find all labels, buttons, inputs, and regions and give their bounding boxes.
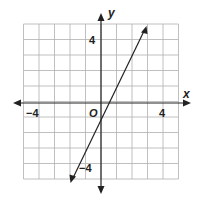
y-axis-down-arrow-icon <box>98 186 105 194</box>
y-axis-label: y <box>107 6 116 20</box>
x-axis-label: x <box>182 87 191 101</box>
y-tick-neg4: −4 <box>79 162 92 174</box>
plotted-line <box>70 26 148 183</box>
line-top-arrow-icon <box>141 26 148 34</box>
x-axis-left-arrow-icon <box>13 100 21 107</box>
x-axis <box>13 100 191 107</box>
origin-label: O <box>89 107 98 119</box>
coordinate-plane: y x O −4 4 4 −4 <box>0 0 199 203</box>
x-tick-4: 4 <box>159 107 166 119</box>
y-tick-4: 4 <box>89 34 96 46</box>
x-tick-neg4: −4 <box>26 107 39 119</box>
y-axis-up-arrow-icon <box>98 13 105 21</box>
